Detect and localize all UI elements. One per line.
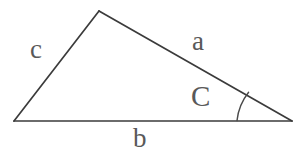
angle-C-arc [237, 92, 249, 120]
side-b-label: b [133, 125, 147, 152]
triangle-svg [0, 0, 304, 161]
side-a-label: a [192, 28, 204, 55]
angle-C-label: C [191, 82, 210, 111]
side-c-line [14, 11, 99, 121]
side-c-label: c [30, 36, 42, 63]
triangle-diagram: c a b C [0, 0, 304, 161]
